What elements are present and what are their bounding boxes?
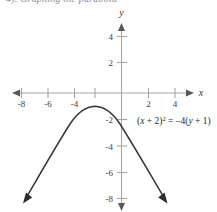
parabola-right-arrowhead [158, 193, 167, 204]
x-axis-right-arrowhead [186, 90, 194, 97]
cut-off-header-text: 4). Graphing the parabola [6, 0, 136, 5]
y-tick-label--4: -4 [106, 142, 114, 152]
y-tick-label--6: -6 [106, 168, 114, 178]
parabola-figure: 4). Graphing the parabola -8 -6 -4 2 [0, 0, 217, 212]
x-tick-label--4: -4 [71, 99, 79, 109]
eq-equals: = –4( [166, 116, 189, 127]
y-tick-label-2: 2 [109, 58, 114, 68]
x-axis-label: x [198, 87, 204, 98]
eq-two: 2) [155, 116, 163, 127]
eq-plus-one: + 1) [193, 116, 211, 127]
coordinate-plane-svg: -8 -6 -4 2 4 4 2 -2 -4 -6 -8 x y (x + 2)… [0, 0, 217, 212]
y-tick-label--2: -2 [106, 115, 114, 125]
parabola-left-arrowhead [23, 193, 32, 204]
x-tick-label--6: -6 [44, 99, 52, 109]
equation-annotation: (x + 2)2 = –4(y + 1) [137, 115, 211, 127]
x-tick-label--8: -8 [18, 99, 26, 109]
y-axis-up-arrowhead [118, 23, 125, 31]
eq-plus: + [144, 116, 154, 126]
y-axis-down-arrowhead [118, 203, 125, 211]
x-tick-label-4: 4 [173, 99, 178, 109]
y-axis-label: y [118, 7, 124, 18]
y-tick-label--8: -8 [106, 194, 114, 204]
x-tick-label-2: 2 [146, 99, 151, 109]
x-axis-left-arrowhead [12, 90, 20, 97]
y-tick-label-4: 4 [109, 32, 114, 42]
